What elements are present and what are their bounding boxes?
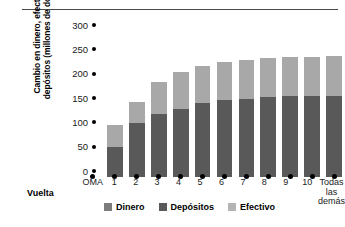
x-axis-label-line-1: 9 (283, 177, 288, 187)
bar-slot (301, 31, 323, 177)
bar-segment-depositos (129, 123, 145, 177)
x-axis-baseline-dot (332, 174, 337, 179)
x-axis-title: Vuelta (27, 188, 54, 198)
legend-item[interactable]: Efectivo (228, 202, 275, 212)
bar-segment-depositos (107, 147, 123, 177)
bar-slot (170, 31, 192, 177)
stacked-bar[interactable] (151, 82, 167, 177)
bar-segment-efectivo (151, 82, 167, 114)
bar-segment-efectivo (282, 57, 298, 96)
legend-item[interactable]: Dinero (104, 202, 145, 212)
bar-slot (214, 31, 236, 177)
x-axis-baseline-dot (244, 174, 249, 179)
bar-segment-depositos (217, 100, 233, 177)
stacked-bar[interactable] (173, 72, 189, 177)
bar-segment-efectivo (326, 56, 342, 96)
stacked-bar[interactable] (282, 57, 298, 177)
x-axis-baseline-dot (288, 174, 293, 179)
bar-segment-depositos (326, 96, 342, 177)
top-divider-rule (22, 9, 338, 10)
y-axis-tick-label: 300 (72, 20, 88, 31)
bar-slot (323, 31, 345, 177)
bar-segment-depositos (239, 99, 255, 177)
bar-segment-depositos (282, 96, 298, 177)
y-axis-title-line-2: depósitos (millones de dólares) (42, 0, 53, 99)
x-axis-baseline-dot (222, 174, 227, 179)
legend-swatch-icon (104, 203, 112, 211)
bar-slot (279, 31, 301, 177)
bar-segment-efectivo (217, 62, 233, 100)
legend-item[interactable]: Depósitos (159, 202, 215, 212)
bar-slot (126, 31, 148, 177)
y-axis-tick-dot (92, 23, 96, 27)
bar-segment-depositos (173, 109, 189, 177)
bar-segment-efectivo (304, 57, 320, 96)
bar-segment-efectivo (239, 60, 255, 99)
bar-slot (257, 31, 279, 177)
x-axis-label: 9 (275, 178, 296, 207)
bar-group (82, 31, 345, 177)
bar-slot (192, 31, 214, 177)
bar-slot (82, 31, 104, 177)
x-axis-label: 10 (297, 178, 318, 207)
x-axis-label: Todaslas demás (318, 178, 345, 207)
bar-slot (104, 31, 126, 177)
bar-segment-efectivo (260, 58, 276, 97)
bar-segment-efectivo (195, 66, 211, 103)
y-axis-title: Cambio en dinero, efectivo y depósitos (… (27, 0, 57, 117)
stacked-bar[interactable] (217, 62, 233, 177)
bar-segment-depositos (195, 103, 211, 177)
y-axis-tick: 300 (56, 20, 96, 30)
bar-slot (148, 31, 170, 177)
legend-label: Depósitos (171, 202, 215, 212)
stacked-bar[interactable] (326, 56, 342, 177)
x-axis-baseline-dot (310, 174, 315, 179)
bar-segment-efectivo (107, 125, 123, 147)
legend-label: Dinero (116, 202, 145, 212)
bar-segment-depositos (260, 97, 276, 177)
x-axis-label: OMA (82, 178, 103, 207)
bar-segment-depositos (304, 96, 320, 177)
stacked-bar[interactable] (304, 57, 320, 177)
y-axis-title-line-1: Cambio en dinero, efectivo y (32, 0, 43, 99)
stacked-bar[interactable] (195, 66, 211, 177)
x-axis-baseline-dot (266, 174, 271, 179)
stacked-bar[interactable] (129, 102, 145, 177)
bar-segment-depositos (151, 114, 167, 177)
bar-slot (235, 31, 257, 177)
legend-swatch-icon (228, 203, 236, 211)
bar-segment-efectivo (173, 72, 189, 109)
x-axis-label-line-1: Todas (319, 177, 343, 187)
plot-area: 300250200150100500 (60, 25, 345, 177)
legend-label: Efectivo (240, 202, 275, 212)
stacked-bar[interactable] (260, 58, 276, 177)
chart-figure: Cambio en dinero, efectivo y depósitos (… (0, 0, 345, 227)
x-axis-label-line-2: las demás (318, 188, 345, 207)
stacked-bar[interactable] (239, 60, 255, 177)
stacked-bar[interactable] (107, 125, 123, 177)
bar-segment-efectivo (129, 102, 145, 123)
chart-legend: DineroDepósitosEfectivo (104, 202, 275, 212)
legend-swatch-icon (159, 203, 167, 211)
